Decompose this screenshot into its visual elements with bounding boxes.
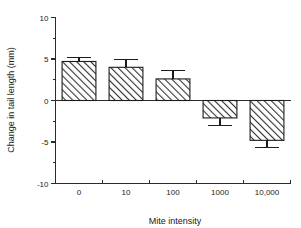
x-tick-label: 100 — [166, 188, 180, 197]
x-tick-label: 0 — [77, 188, 82, 197]
y-tick-label: -10 — [37, 180, 49, 189]
y-axis-tick-labels: 1050-5-10 — [37, 14, 49, 189]
y-axis-title: Change in tail length (mm) — [6, 47, 16, 153]
chart-figure: 1050-5-10 010100100010,000 Mite intensit… — [0, 0, 301, 228]
x-tick-label: 1000 — [211, 188, 229, 197]
x-axis-tick-labels: 010100100010,000 — [77, 188, 280, 197]
y-tick-label: 0 — [44, 97, 49, 106]
y-tick-label: -5 — [41, 138, 49, 147]
x-tick-label: 10 — [122, 188, 131, 197]
bar-100 — [156, 79, 190, 101]
bar-10000 — [250, 101, 284, 141]
bar-0 — [62, 61, 96, 100]
x-axis-title: Mite intensity — [149, 216, 202, 226]
bar-1000 — [203, 101, 237, 118]
error-bars-group — [67, 57, 278, 147]
x-tick-label: 10,000 — [255, 188, 280, 197]
bar-chart: 1050-5-10 010100100010,000 Mite intensit… — [0, 0, 301, 228]
bar-10 — [109, 67, 143, 100]
y-tick-label: 5 — [44, 55, 49, 64]
y-tick-label: 10 — [40, 14, 49, 23]
